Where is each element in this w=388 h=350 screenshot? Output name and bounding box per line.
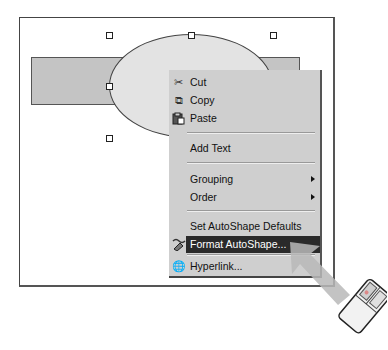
resize-handle-left[interactable]	[106, 83, 113, 90]
resize-handle-bottom-left[interactable]	[106, 135, 113, 142]
submenu-arrow-icon	[311, 194, 315, 200]
menu-item-label: Grouping	[190, 171, 233, 188]
menu-item-label: Order	[190, 189, 217, 206]
copy-icon: ⧉	[172, 94, 185, 107]
menu-item-paste[interactable]: Paste	[169, 110, 320, 127]
menu-item-label: Copy	[190, 92, 215, 109]
mouse-icon	[335, 270, 387, 350]
menu-item-label: Set AutoShape Defaults	[190, 218, 302, 235]
menu-item-label: Paste	[190, 110, 217, 127]
menu-item-grouping[interactable]: Grouping	[169, 171, 320, 188]
menu-item-label: Format AutoShape...	[190, 236, 286, 253]
menu-separator	[187, 210, 315, 212]
menu-separator	[187, 132, 315, 134]
menu-item-label: Add Text	[190, 140, 231, 157]
submenu-arrow-icon	[311, 176, 315, 182]
menu-item-add-text[interactable]: Add Text	[169, 140, 320, 157]
resize-handle-top[interactable]	[188, 32, 195, 39]
scissors-icon: ✂	[172, 76, 185, 89]
menu-separator	[187, 162, 315, 164]
format-autoshape-icon	[172, 238, 185, 251]
paste-icon	[172, 112, 185, 125]
menu-item-label: Hyperlink...	[190, 258, 243, 275]
menu-item-order[interactable]: Order	[169, 189, 320, 206]
format-autoshape-icon-cell	[169, 236, 186, 253]
resize-handle-top-left[interactable]	[106, 32, 113, 39]
menu-item-cut[interactable]: ✂ Cut	[169, 74, 320, 91]
menu-item-copy[interactable]: ⧉ Copy	[169, 92, 320, 109]
menu-item-label: Cut	[190, 74, 206, 91]
menu-item-set-autoshape-defaults[interactable]: Set AutoShape Defaults	[169, 218, 320, 235]
resize-handle-top-right[interactable]	[270, 32, 277, 39]
hyperlink-globe-icon: 🌐	[172, 260, 185, 273]
